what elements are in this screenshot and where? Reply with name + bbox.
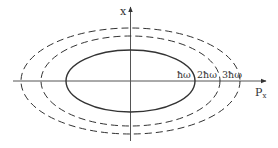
px-axis-label-sub: x: [262, 92, 266, 100]
orbit-label-3hw: 3ħω: [222, 69, 242, 80]
x-axis-label: x: [120, 5, 127, 18]
orbit-label-1hw: ħω: [177, 69, 191, 80]
px-axis-label: Px: [255, 86, 266, 100]
phase-space-diagram: x Px ħω 2ħω 3ħω: [0, 0, 278, 148]
orbit-label-2hw: 2ħω: [197, 69, 217, 80]
